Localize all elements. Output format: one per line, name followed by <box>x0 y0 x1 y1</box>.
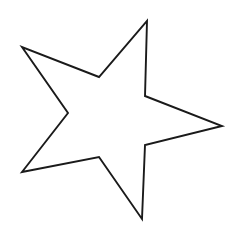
figure-canvas <box>0 0 234 232</box>
star-drawing <box>0 0 234 232</box>
